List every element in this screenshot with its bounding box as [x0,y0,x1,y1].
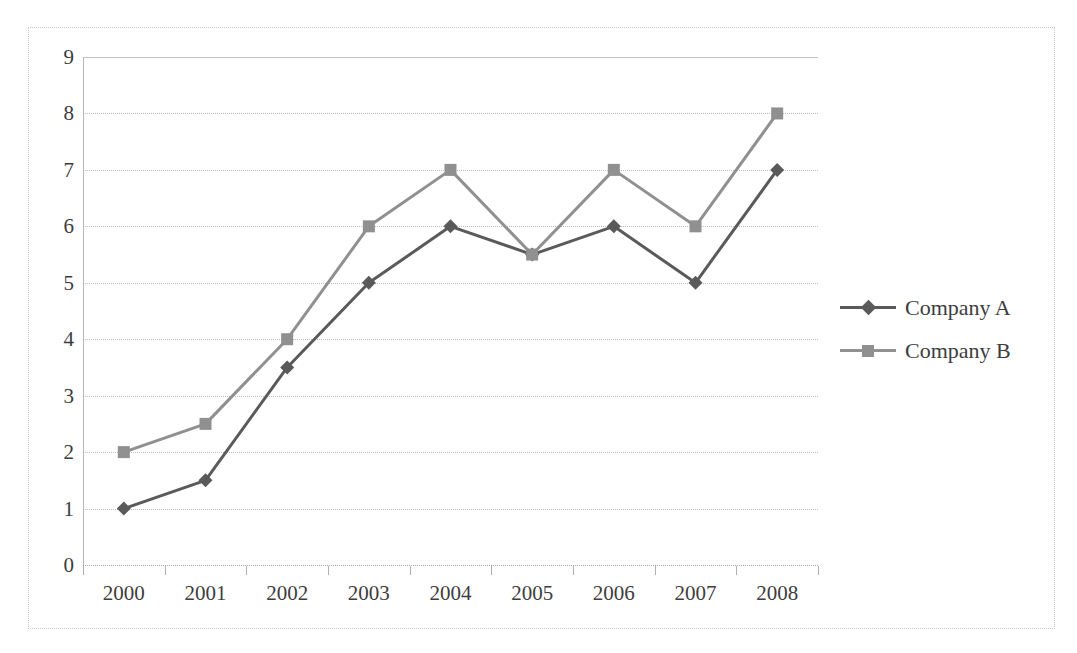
legend-label-company-a: Company A [905,297,1011,319]
x-tick-5 [491,566,492,575]
y-tick-label-0: 0 [28,555,74,576]
diamond-marker-icon [860,300,876,316]
data-series-layer [83,57,818,565]
x-tick-label-2007: 2007 [675,583,717,604]
line-chart: 0123456789 20002001200220032004200520062… [0,0,1077,653]
square-marker-icon [445,164,457,176]
x-tick-2 [246,566,247,575]
y-axis-tick-labels: 0123456789 [22,57,74,565]
legend-swatch-company-b [840,341,896,361]
x-tick-label-2005: 2005 [511,583,553,604]
legend-label-company-b: Company B [905,340,1011,362]
y-tick-label-7: 7 [28,159,74,180]
square-marker-icon [526,249,538,261]
x-tick-label-2008: 2008 [756,583,798,604]
legend-entry-company-b[interactable]: Company B [840,329,1050,372]
y-tick-label-4: 4 [28,329,74,350]
x-tick-label-2003: 2003 [348,583,390,604]
square-marker-icon [771,107,783,119]
legend-swatch-company-a [840,298,896,318]
x-tick-6 [573,566,574,575]
y-tick-label-6: 6 [28,216,74,237]
x-tick-0 [83,566,84,575]
square-marker-icon [363,220,375,232]
x-axis-tick-labels: 200020012002200320042005200620072008 [83,583,818,613]
square-marker-icon [281,333,293,345]
x-tick-label-2001: 2001 [185,583,227,604]
x-tick-3 [328,566,329,575]
x-tick-8 [736,566,737,575]
x-axis-ticks [83,566,818,576]
diamond-marker-icon [117,502,131,516]
legend-entry-company-a[interactable]: Company A [840,286,1050,329]
y-tick-label-2: 2 [28,442,74,463]
x-tick-4 [410,566,411,575]
x-tick-label-2000: 2000 [103,583,145,604]
x-tick-7 [655,566,656,575]
chart-legend: Company A Company B [840,286,1050,372]
x-tick-9 [818,566,819,575]
y-tick-label-8: 8 [28,103,74,124]
square-marker-icon [862,345,874,357]
square-marker-icon [200,418,212,430]
x-tick-1 [165,566,166,575]
y-tick-label-1: 1 [28,498,74,519]
y-tick-label-3: 3 [28,385,74,406]
y-tick-label-5: 5 [28,272,74,293]
square-marker-icon [608,164,620,176]
x-tick-label-2004: 2004 [430,583,472,604]
x-tick-label-2002: 2002 [266,583,308,604]
square-marker-icon [118,446,130,458]
x-tick-label-2006: 2006 [593,583,635,604]
y-tick-label-9: 9 [28,47,74,68]
square-marker-icon [690,220,702,232]
